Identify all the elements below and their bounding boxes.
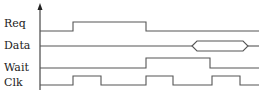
- signal-label-clk: Clk: [4, 76, 23, 89]
- signal-label-data: Data: [4, 39, 31, 52]
- timing-diagram: Req Data Wait Clk: [0, 0, 269, 95]
- clk-waveform: [40, 76, 259, 85]
- req-waveform: [40, 22, 259, 31]
- data-waveform: [40, 41, 259, 51]
- wait-waveform: [40, 58, 259, 68]
- axis-arrow-icon: [38, 3, 43, 10]
- signal-label-wait: Wait: [4, 61, 29, 74]
- signal-label-req: Req: [4, 17, 26, 30]
